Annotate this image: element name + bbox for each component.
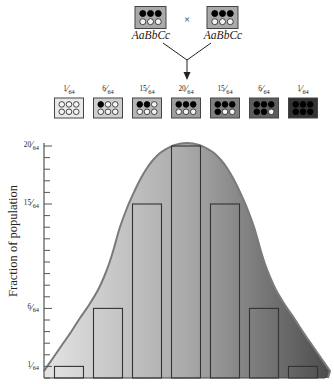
offspring-fraction-label: 15⁄64	[139, 84, 155, 95]
empty-dot-icon	[59, 102, 65, 108]
filled-dot-icon	[300, 102, 306, 108]
filled-dot-icon	[176, 102, 182, 108]
filled-dot-icon	[261, 109, 267, 115]
bell-curve-fill	[44, 143, 330, 378]
filled-dot-icon	[215, 102, 221, 108]
empty-dot-icon	[176, 109, 182, 115]
offspring-fraction-label: 20⁄64	[178, 84, 194, 95]
empty-dot-icon	[66, 109, 72, 115]
empty-dot-icon	[212, 19, 218, 25]
filled-dot-icon	[183, 102, 189, 108]
empty-dot-icon	[229, 109, 235, 115]
empty-dot-icon	[105, 109, 111, 115]
empty-dot-icon	[105, 102, 111, 108]
empty-dot-icon	[137, 109, 143, 115]
filled-dot-icon	[254, 102, 260, 108]
offspring-class: 15⁄64	[133, 84, 162, 118]
filled-dot-icon	[155, 11, 161, 17]
y-axis-title: Fraction of population	[6, 184, 20, 297]
empty-dot-icon	[59, 109, 65, 115]
distribution-chart: 1⁄646⁄6415⁄6420⁄64 Fraction of populatio…	[6, 140, 330, 378]
empty-dot-icon	[222, 109, 228, 115]
cross-symbol: ×	[184, 14, 190, 25]
parental-cross: AaBbCc AaBbCc ×	[131, 7, 242, 81]
empty-dot-icon	[73, 102, 79, 108]
parent-genotype-label-left: AaBbCc	[131, 29, 170, 41]
filled-dot-icon	[300, 109, 306, 115]
empty-dot-icon	[112, 109, 118, 115]
empty-dot-icon	[151, 109, 157, 115]
offspring-phenotype-box	[172, 98, 201, 118]
filled-dot-icon	[307, 109, 313, 115]
offspring-class: 6⁄64	[250, 84, 279, 118]
empty-dot-icon	[268, 109, 274, 115]
filled-dot-icon	[98, 102, 104, 108]
offspring-phenotype-box	[289, 98, 318, 118]
empty-dot-icon	[155, 19, 161, 25]
parent-box-right	[207, 7, 238, 29]
empty-dot-icon	[140, 19, 146, 25]
filled-dot-icon	[137, 102, 143, 108]
cross-arrow	[163, 43, 211, 73]
offspring-class: 1⁄64	[55, 84, 84, 118]
filled-dot-icon	[227, 11, 233, 17]
polygenic-inheritance-figure: AaBbCc AaBbCc × 1⁄646⁄6415⁄6420⁄6415⁄646…	[0, 0, 334, 384]
filled-dot-icon	[293, 102, 299, 108]
offspring-fraction-label: 1⁄64	[63, 84, 75, 95]
empty-dot-icon	[220, 19, 226, 25]
empty-dot-icon	[148, 19, 154, 25]
filled-dot-icon	[254, 109, 260, 115]
offspring-phenotype-box	[250, 98, 279, 118]
offspring-phenotype-box	[133, 98, 162, 118]
offspring-class: 6⁄64	[94, 84, 123, 118]
offspring-phenotype-box	[94, 98, 123, 118]
y-axis-ticks: 1⁄646⁄6415⁄6420⁄64	[24, 140, 52, 378]
filled-dot-icon	[261, 102, 267, 108]
parent-box-left	[135, 7, 166, 29]
y-tick-label: 6⁄64	[27, 303, 39, 314]
parent-genotype-label-right: AaBbCc	[203, 29, 242, 41]
offspring-fraction-label: 15⁄64	[217, 84, 233, 95]
offspring-phenotype-box	[55, 98, 84, 118]
offspring-class: 15⁄64	[211, 84, 240, 118]
filled-dot-icon	[220, 11, 226, 17]
empty-dot-icon	[227, 19, 233, 25]
offspring-fraction-label: 6⁄64	[258, 84, 270, 95]
y-tick-label: 15⁄64	[24, 198, 40, 209]
offspring-class: 1⁄64	[289, 84, 318, 118]
y-tick-label: 1⁄64	[27, 361, 39, 372]
offspring-class: 20⁄64	[172, 84, 201, 118]
offspring-fraction-label: 1⁄64	[297, 84, 309, 95]
offspring-fraction-label: 6⁄64	[102, 84, 114, 95]
y-tick-label: 20⁄64	[24, 140, 40, 151]
filled-dot-icon	[212, 11, 218, 17]
filled-dot-icon	[222, 102, 228, 108]
empty-dot-icon	[98, 109, 104, 115]
empty-dot-icon	[190, 109, 196, 115]
offspring-phenotype-box	[211, 98, 240, 118]
filled-dot-icon	[307, 102, 313, 108]
empty-dot-icon	[112, 102, 118, 108]
offspring-phenotype-row: 1⁄646⁄6415⁄6420⁄6415⁄646⁄641⁄64	[55, 84, 318, 118]
filled-dot-icon	[140, 11, 146, 17]
empty-dot-icon	[73, 109, 79, 115]
empty-dot-icon	[66, 102, 72, 108]
arrow-down-icon	[184, 72, 191, 80]
filled-dot-icon	[148, 11, 154, 17]
empty-dot-icon	[183, 109, 189, 115]
filled-dot-icon	[229, 102, 235, 108]
filled-dot-icon	[190, 102, 196, 108]
filled-dot-icon	[144, 102, 150, 108]
empty-dot-icon	[151, 102, 157, 108]
filled-dot-icon	[268, 102, 274, 108]
filled-dot-icon	[215, 109, 221, 115]
filled-dot-icon	[293, 109, 299, 115]
empty-dot-icon	[144, 109, 150, 115]
